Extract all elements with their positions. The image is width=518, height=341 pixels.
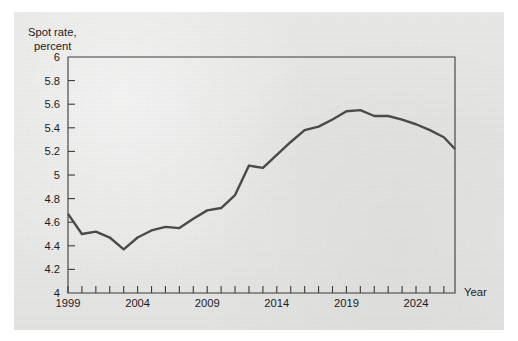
y-axis-ticks	[68, 81, 75, 270]
y-tick-label: 4.8	[44, 193, 60, 205]
y-tick-label: 4.6	[44, 216, 60, 228]
y-tick-label: 6	[54, 51, 60, 63]
chart-title-line-1: Spot rate,	[28, 26, 77, 38]
x-axis-ticks	[68, 286, 444, 293]
chart-svg: Spot rate, percent 44.24.44.64.855.25.45…	[0, 0, 518, 341]
x-tick-label: 2014	[264, 297, 289, 309]
x-axis-labels: 199920042009201420192024	[56, 297, 429, 309]
x-tick-label: 2019	[334, 297, 359, 309]
y-tick-label: 5.4	[44, 122, 60, 134]
x-axis-title: Year	[464, 286, 487, 298]
x-tick-label: 2024	[404, 297, 429, 309]
spot-rate-line-chart: Spot rate, percent 44.24.44.64.855.25.45…	[0, 0, 518, 341]
y-tick-label: 4.4	[44, 240, 60, 252]
y-tick-label: 5.2	[44, 145, 60, 157]
chart-page: Spot rate, percent 44.24.44.64.855.25.45…	[0, 0, 518, 341]
y-tick-label: 5.6	[44, 98, 60, 110]
y-tick-label: 5.8	[44, 75, 60, 87]
y-tick-label: 5	[54, 169, 60, 181]
x-tick-label: 2009	[195, 297, 220, 309]
plot-frame	[68, 57, 455, 293]
spot-rate-series-line	[68, 110, 455, 249]
series-group	[68, 110, 455, 249]
y-axis-labels: 44.24.44.64.855.25.45.65.86	[44, 51, 60, 299]
y-tick-label: 4.2	[44, 263, 60, 275]
x-tick-label: 2004	[125, 297, 150, 309]
x-tick-label: 1999	[56, 297, 81, 309]
